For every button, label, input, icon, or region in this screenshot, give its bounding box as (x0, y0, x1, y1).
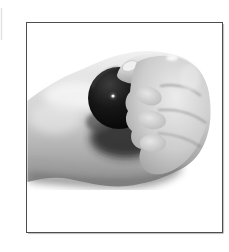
photograph (0, 0, 229, 252)
hand-highlight-2 (29, 102, 81, 134)
fingertip-3 (140, 134, 166, 152)
knuckle-highlight-2 (180, 64, 200, 92)
ball-dot (111, 94, 114, 97)
knuckle-highlight (166, 55, 178, 61)
screenshot-root (0, 0, 229, 252)
